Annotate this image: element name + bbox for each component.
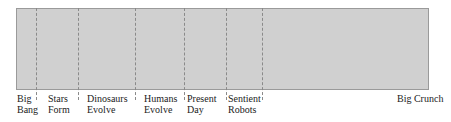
label-big-crunch: Big Crunch bbox=[397, 93, 443, 104]
label-line: Dinosaurs bbox=[87, 93, 128, 104]
divider-stars-form bbox=[78, 8, 79, 100]
label-line: Big Crunch bbox=[397, 93, 443, 104]
label-stars-form: Stars Form bbox=[48, 93, 70, 115]
divider-big-bang bbox=[36, 8, 37, 100]
label-present-day: Present Day bbox=[187, 93, 216, 115]
label-line: Present bbox=[187, 93, 216, 104]
divider-present-day bbox=[226, 8, 227, 100]
label-humans-evolve: Humans Evolve bbox=[144, 93, 177, 115]
label-line: Stars bbox=[48, 93, 70, 104]
label-line: Robots bbox=[228, 104, 261, 115]
label-line: Humans bbox=[144, 93, 177, 104]
label-line: Bang bbox=[17, 104, 38, 115]
label-big-bang: Big Bang bbox=[17, 93, 38, 115]
divider-sentient-robots bbox=[262, 8, 263, 100]
divider-dinosaurs-evolve bbox=[135, 8, 136, 100]
label-line: Big bbox=[17, 93, 38, 104]
divider-humans-evolve bbox=[184, 8, 185, 100]
label-dinosaurs-evolve: Dinosaurs Evolve bbox=[87, 93, 128, 115]
label-line: Evolve bbox=[87, 104, 128, 115]
label-line: Evolve bbox=[144, 104, 177, 115]
label-sentient-robots: Sentient Robots bbox=[228, 93, 261, 115]
label-line: Day bbox=[187, 104, 216, 115]
label-line: Form bbox=[48, 104, 70, 115]
label-line: Sentient bbox=[228, 93, 261, 104]
